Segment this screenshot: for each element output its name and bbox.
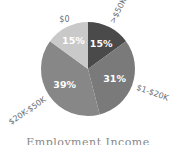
category-label: $1-$20K <box>135 83 170 103</box>
category-label: $20K-$50K <box>7 94 48 126</box>
percent-label: 15% <box>90 38 113 49</box>
percent-label: 39% <box>53 79 76 90</box>
category-label: >$50K <box>108 0 129 25</box>
category-label: $0 <box>59 15 69 24</box>
percent-label: 31% <box>103 73 126 84</box>
chart-title: Employment Income <box>26 136 149 145</box>
pie-chart: 15%31%39%15% >$50K$1-$20K$20K-$50K$0 Emp… <box>0 0 175 145</box>
percent-label: 15% <box>62 35 85 46</box>
pie-slices <box>41 22 135 116</box>
